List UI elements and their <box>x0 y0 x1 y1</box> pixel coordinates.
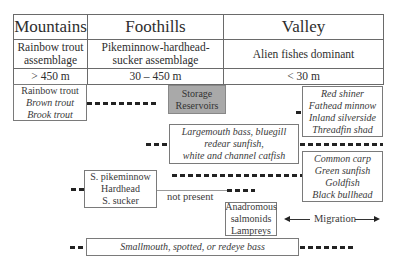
migration-line-right <box>355 219 375 220</box>
trout-range-dash <box>87 102 156 105</box>
bass-box: Smallmouth, spotted, or redeye bass <box>86 238 299 256</box>
not-present-dash <box>227 189 255 192</box>
elevation-valley: < 30 m <box>224 69 384 85</box>
largemouth-range-dash <box>146 143 169 146</box>
migration-line-left <box>288 219 310 220</box>
elevation-mountains: > 450 m <box>14 69 88 85</box>
largemouth-box: Largemouth bass, bluegill redear sunfish… <box>169 124 299 164</box>
zone-header-foothills: Foothills <box>88 15 224 40</box>
assemblage-mountains: Rainbow trout assemblage <box>14 40 88 69</box>
assemblage-foothills: Pikeminnow-hardhead- sucker assemblage <box>88 40 224 69</box>
storage-reservoirs-box: Storage Reservoirs <box>168 85 226 114</box>
carp-box: Common carp Green sunfish Goldfish Black… <box>302 151 383 202</box>
bass-left-dash <box>70 246 84 249</box>
zone-table: Mountains Foothills Valley Rainbow trout… <box>13 14 384 85</box>
largemouth-valley-dash <box>300 143 383 146</box>
valley-minnows-box: Red shiner Fathead minnow Inland silvers… <box>302 86 383 137</box>
zone-header-valley: Valley <box>224 15 384 40</box>
native-foothill-right-dash <box>172 174 302 177</box>
not-present-label: not present <box>167 191 213 203</box>
elevation-foothills: 30 – 450 m <box>88 69 224 85</box>
trout-box: Rainbow trout Brown trout Brook trout <box>13 84 87 121</box>
zone-header-mountains: Mountains <box>14 15 88 40</box>
native-foothill-box: S. pikeminnow Hardhead S. sucker <box>84 170 157 208</box>
migration-label: Migration <box>314 213 356 225</box>
assemblage-valley: Alien fishes dominant <box>224 40 384 69</box>
native-foothill-left-dash <box>71 188 84 191</box>
bass-right-dash <box>300 246 356 249</box>
anadromous-box: Anadromous salmonids Lampreys <box>225 202 277 236</box>
migration-arrow-right-icon <box>374 216 380 222</box>
